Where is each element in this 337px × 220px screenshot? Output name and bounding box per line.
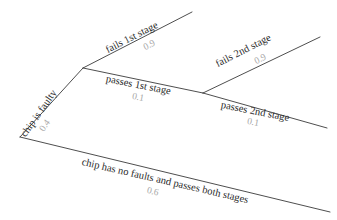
- branch-line-fails-1st-stage: [83, 12, 192, 68]
- branch-line-passes-2nd-stage: [203, 93, 327, 128]
- branch-line-fails-2nd-stage: [203, 37, 320, 93]
- tree-branches-svg: [0, 0, 337, 220]
- probability-tree-diagram: chip is faulty 0.4 fails 1st stage 0.9 p…: [0, 0, 337, 220]
- branch-line-chip-has-no-faults: [20, 137, 330, 212]
- branch-line-passes-1st-stage: [83, 68, 203, 93]
- branch-line-chip-is-faulty: [20, 68, 83, 137]
